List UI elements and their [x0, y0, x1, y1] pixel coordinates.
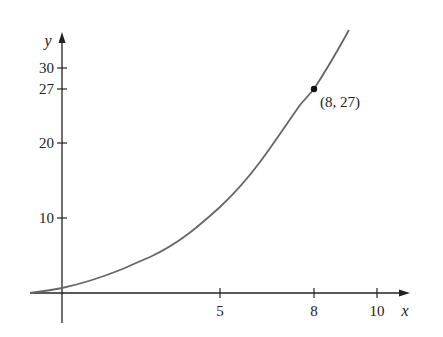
y-tick-label-10: 10: [39, 210, 54, 226]
x-tick-label-10: 10: [370, 303, 385, 319]
y-tick-label-30: 30: [39, 60, 54, 76]
y-tick-label-20: 20: [39, 135, 54, 151]
y-axis-arrow-icon: [59, 32, 66, 43]
data-point-marker: [311, 86, 317, 92]
x-axis-label: x: [400, 302, 408, 319]
x-tick-label-5: 5: [216, 303, 224, 319]
chart: 5 8 10 x 30 27 20 10 y (8, 27): [0, 0, 443, 337]
curve: [30, 30, 349, 293]
y-tick-label-27: 27: [39, 81, 55, 97]
x-axis-arrow-icon: [399, 290, 410, 297]
data-point-label: (8, 27): [320, 94, 360, 111]
y-axis-label: y: [42, 32, 52, 50]
x-tick-label-8: 8: [310, 303, 318, 319]
